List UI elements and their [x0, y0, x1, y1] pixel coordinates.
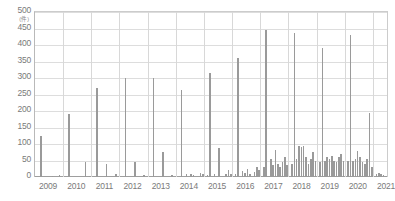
- bar: [329, 159, 331, 177]
- x-tick-label: 2020: [349, 181, 367, 191]
- year-gridline: [345, 12, 346, 177]
- year-gridline: [260, 12, 261, 177]
- x-tick-label: 2018: [292, 181, 310, 191]
- year-gridline: [288, 12, 289, 177]
- bar: [125, 78, 127, 177]
- bar: [312, 152, 314, 177]
- bar: [340, 154, 342, 177]
- y-tick-label: 0: [26, 171, 31, 180]
- bar: [294, 33, 296, 177]
- bar: [338, 157, 340, 177]
- y-tick-label: 50: [22, 155, 31, 164]
- bar: [235, 174, 237, 177]
- gridline: [35, 45, 387, 46]
- bar: [284, 157, 286, 177]
- bar: [310, 159, 312, 177]
- bar: [364, 164, 366, 177]
- x-tick-label: 2012: [123, 181, 141, 191]
- bar: [263, 167, 265, 177]
- x-tick-label: 2013: [152, 181, 170, 191]
- bar: [85, 162, 87, 177]
- gridline: [35, 12, 387, 13]
- year-gridline: [119, 12, 120, 177]
- bar: [301, 147, 303, 177]
- gridline: [35, 29, 387, 30]
- bar: [333, 161, 335, 178]
- bar: [153, 78, 155, 177]
- bar: [326, 157, 328, 177]
- y-tick-label: 400: [17, 39, 31, 48]
- plot-area: [34, 11, 388, 177]
- bar: [115, 174, 117, 177]
- y-tick-label: 500: [17, 6, 31, 15]
- bar: [249, 174, 251, 177]
- bar: [265, 30, 267, 177]
- x-tick-label: 2011: [96, 181, 113, 191]
- bar: [270, 159, 272, 177]
- y-axis: (件) 050100150200250300350400450500: [0, 0, 34, 201]
- year-gridline: [91, 12, 92, 177]
- bar: [369, 113, 371, 177]
- bar: [322, 48, 324, 177]
- bar: [385, 176, 387, 177]
- bar: [237, 58, 239, 177]
- bar: [308, 164, 310, 177]
- bar: [171, 175, 173, 177]
- bar: [350, 35, 352, 177]
- y-tick-label: 250: [17, 89, 31, 98]
- y-tick-label: 350: [17, 56, 31, 65]
- year-gridline: [204, 12, 205, 177]
- x-tick-label: 2014: [180, 181, 198, 191]
- gridline: [35, 111, 387, 112]
- year-gridline: [317, 12, 318, 177]
- bar: [305, 157, 307, 177]
- gridline: [35, 95, 387, 96]
- bar: [380, 174, 382, 177]
- bar: [209, 73, 211, 177]
- bar: [218, 148, 220, 177]
- bar: [359, 157, 361, 177]
- bar: [324, 161, 326, 178]
- bar: [106, 164, 108, 177]
- bar: [134, 162, 136, 177]
- bar: [40, 136, 42, 177]
- bar: [96, 88, 98, 177]
- bar: [214, 174, 216, 177]
- x-tick-label: 2017: [264, 181, 282, 191]
- bar: [207, 175, 209, 177]
- bar: [376, 174, 378, 177]
- bar: [275, 150, 277, 177]
- x-tick-label: 2021: [377, 181, 395, 191]
- bar: [162, 152, 164, 177]
- bar: [254, 172, 256, 177]
- x-tick-label: 2019: [321, 181, 339, 191]
- bar: [315, 161, 317, 178]
- bar: [244, 173, 246, 177]
- bar: [59, 175, 61, 177]
- year-gridline: [63, 12, 64, 177]
- bar: [282, 162, 284, 177]
- bar: [298, 146, 300, 177]
- bar: [378, 173, 380, 177]
- bar: [362, 162, 364, 177]
- bar: [383, 175, 385, 177]
- bar: [242, 171, 244, 177]
- bar: [319, 162, 321, 177]
- bar: [247, 169, 249, 177]
- bar: [200, 173, 202, 177]
- y-tick-label: 100: [17, 138, 31, 147]
- bar: [355, 159, 357, 177]
- year-gridline: [176, 12, 177, 177]
- bar: [225, 174, 227, 177]
- year-gridline: [232, 12, 233, 177]
- bar: [272, 165, 274, 177]
- bar: [303, 146, 305, 177]
- bar: [279, 167, 281, 177]
- x-tick-label: 2010: [67, 181, 85, 191]
- bar: [52, 176, 54, 177]
- x-axis: 2009201020112012201320142015201620172018…: [34, 178, 388, 201]
- bar: [352, 161, 354, 177]
- bar: [181, 90, 183, 177]
- gridline: [35, 128, 387, 129]
- x-tick-label: 2009: [39, 181, 57, 191]
